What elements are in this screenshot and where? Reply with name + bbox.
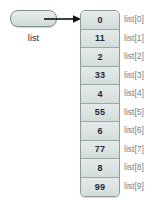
array-cell-value: 0 xyxy=(97,15,102,25)
reference-arrow-icon xyxy=(44,12,82,26)
array-reference-diagram: list 011233455677899 list[0]list[1]list[… xyxy=(0,0,166,204)
array-cell: 2 xyxy=(81,48,119,67)
array-cell: 0 xyxy=(81,11,119,30)
array-cell: 8 xyxy=(81,159,119,178)
array-cell: 33 xyxy=(81,67,119,86)
array-cell-value: 6 xyxy=(97,126,102,136)
array-cell: 4 xyxy=(81,85,119,104)
array-index-label: list[6] xyxy=(124,121,166,140)
array-cell-value: 77 xyxy=(95,144,105,154)
array-cell-value: 99 xyxy=(95,182,105,192)
array-index-label: list[4] xyxy=(124,84,166,103)
array-cell: 11 xyxy=(81,30,119,49)
array-cell: 99 xyxy=(81,178,119,197)
array-index-label: list[5] xyxy=(124,103,166,122)
array-cell-value: 2 xyxy=(97,52,102,62)
array-index-label: list[7] xyxy=(124,140,166,159)
array-index-label: list[8] xyxy=(124,158,166,177)
array-cell-value: 8 xyxy=(97,163,102,173)
array-index-label: list[9] xyxy=(124,177,166,196)
array-index-label: list[1] xyxy=(124,29,166,48)
array-container: 011233455677899 xyxy=(80,10,120,197)
array-cell-value: 55 xyxy=(95,107,105,117)
array-cell-value: 4 xyxy=(97,89,102,99)
array-cell: 77 xyxy=(81,141,119,160)
array-index-label: list[2] xyxy=(124,47,166,66)
array-index-label: list[0] xyxy=(124,10,166,29)
index-label-column: list[0]list[1]list[2]list[3]list[4]list[… xyxy=(124,10,166,197)
array-cell-value: 11 xyxy=(95,33,105,43)
array-index-label: list[3] xyxy=(124,66,166,85)
array-cell: 6 xyxy=(81,122,119,141)
array-cell: 55 xyxy=(81,104,119,123)
list-pointer-label: list xyxy=(10,33,57,43)
array-cell-value: 33 xyxy=(95,70,105,80)
